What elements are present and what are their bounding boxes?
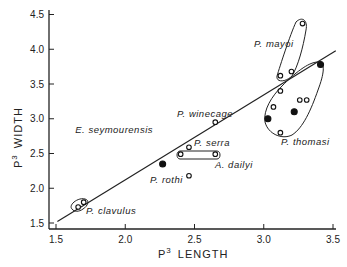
- label-p-winecage: P. winecage: [177, 108, 233, 119]
- open-point: [178, 152, 183, 157]
- y-tick-label: 3.5: [30, 79, 44, 90]
- x-tick-label: 2.5: [188, 234, 202, 245]
- open-point: [76, 205, 81, 210]
- x-tick-label: 1.5: [49, 234, 63, 245]
- open-point: [213, 152, 218, 157]
- label-p-serra: P. serra: [194, 137, 230, 148]
- label-e-seymourensis: E. seymourensis: [75, 124, 153, 135]
- y-tick-label: 2.0: [30, 183, 44, 194]
- open-point: [289, 69, 294, 74]
- open-point: [297, 98, 302, 103]
- x-tick-label: 3.0: [257, 234, 271, 245]
- open-point: [278, 130, 283, 135]
- y-axis-title: P3WIDTH: [10, 107, 24, 168]
- y-tick-label: 3.0: [30, 113, 44, 124]
- x-axis-title: P3LENGTH: [158, 246, 228, 260]
- x-tick-label: 2.0: [118, 234, 132, 245]
- scatter-chart: 1.52.02.53.03.51.52.02.53.03.54.04.5 P. …: [0, 0, 347, 267]
- filled-point: [160, 161, 166, 167]
- open-point: [271, 105, 276, 110]
- filled-point: [291, 109, 297, 115]
- open-point: [278, 89, 283, 94]
- x-tick-label: 3.5: [326, 234, 340, 245]
- y-tick-label: 4.0: [30, 44, 44, 55]
- open-point: [278, 73, 283, 78]
- filled-point: [318, 62, 324, 68]
- open-point: [213, 120, 218, 125]
- open-point: [300, 21, 305, 26]
- label-p-rothi: P. rothi: [150, 174, 183, 185]
- label-p-clavulus: P. clavulus: [86, 205, 136, 216]
- open-point: [304, 98, 309, 103]
- y-tick-label: 2.5: [30, 148, 44, 159]
- filled-point: [265, 116, 271, 122]
- label-a-dailyi: A. dailyi: [214, 159, 253, 170]
- y-tick-label: 1.5: [30, 218, 44, 229]
- open-point: [187, 145, 192, 150]
- open-point: [187, 173, 192, 178]
- label-p-thomasi: P. thomasi: [281, 136, 330, 147]
- open-point: [81, 200, 86, 205]
- y-tick-label: 4.5: [30, 9, 44, 20]
- group-labels: P. clavulusE. seymourensisP. winecageP. …: [75, 38, 330, 216]
- label-p-mayoi: P. mayoi: [254, 38, 294, 49]
